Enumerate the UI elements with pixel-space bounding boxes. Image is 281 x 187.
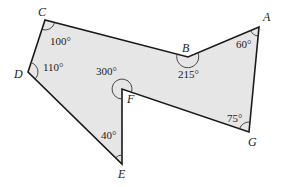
vertex-label-d: D [14,68,23,80]
angle-label-a: 60° [236,39,251,50]
angle-label-d: 110° [43,62,64,73]
angle-label-e: 40° [101,130,116,141]
vertex-label-g: G [248,136,257,148]
angle-label-c: 100° [50,36,71,47]
vertex-label-e: E [118,168,125,180]
polygon-diagram: A B C D E F G 60° 215° 100° 110° 40° 300… [0,0,281,187]
vertex-label-f: F [127,93,134,105]
vertex-label-c: C [38,6,46,18]
vertex-label-a: A [263,11,270,23]
angle-label-f: 300° [96,66,117,77]
angle-label-b: 215° [178,69,199,80]
polygon-figure [0,0,281,187]
vertex-label-b: B [182,42,189,54]
angle-label-g: 75° [227,113,242,124]
